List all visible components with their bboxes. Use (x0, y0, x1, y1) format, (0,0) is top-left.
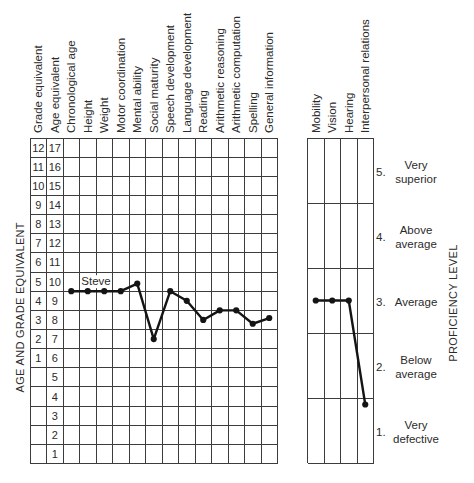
data-point (266, 315, 272, 321)
grade-tick-label: 11 (33, 161, 44, 173)
level-number: 5. (376, 166, 386, 178)
age-tick-label: 5 (52, 371, 58, 383)
data-point (200, 317, 206, 323)
age-tick-label: 14 (49, 199, 61, 211)
data-point (313, 297, 319, 303)
column-header: Speech development (164, 24, 176, 133)
proficiency-axis-title: PROFICIENCY LEVEL (447, 244, 459, 361)
level-label: average (395, 238, 437, 250)
level-label: defective (393, 433, 439, 445)
age-tick-label: 17 (49, 142, 61, 154)
column-header: Height (82, 99, 94, 133)
age-tick-label: 13 (49, 218, 61, 230)
level-number: 1. (376, 426, 386, 438)
column-header: Social maturity (148, 57, 160, 133)
age-tick-label: 4 (52, 391, 58, 403)
grade-tick-label: 8 (35, 218, 41, 230)
age-tick-label: 8 (52, 314, 58, 326)
data-point (151, 336, 157, 342)
age-tick-label: 15 (49, 180, 61, 192)
data-point (184, 298, 190, 304)
column-header: Arithmetic computation (230, 16, 242, 133)
level-label: Below (400, 354, 432, 366)
age-tick-label: 7 (52, 333, 58, 345)
data-point (85, 288, 91, 294)
age-tick-label: 16 (49, 161, 61, 173)
age-tick-label: 9 (52, 295, 58, 307)
grade-tick-label: 5 (35, 276, 41, 288)
column-header: Mental ability (131, 66, 143, 133)
grade-tick-label: 3 (35, 314, 41, 326)
age-tick-label: 11 (49, 256, 60, 268)
column-header: Mobility (310, 94, 322, 133)
age-tick-label: 3 (52, 410, 58, 422)
age-tick-label: 6 (52, 352, 58, 364)
data-point (167, 288, 173, 294)
column-header: Arithmetic reasoning (214, 28, 226, 133)
grade-tick-label: 2 (35, 333, 41, 345)
age-tick-label: 10 (49, 276, 61, 288)
data-point (217, 307, 223, 313)
level-label: superior (395, 173, 437, 185)
column-header: Interpersonal relations (359, 19, 371, 133)
level-number: 2. (376, 361, 386, 373)
column-header: Vision (326, 102, 338, 133)
grade-tick-label: 9 (35, 199, 41, 211)
level-label: Very (404, 159, 427, 171)
column-header: Chronological age (65, 40, 77, 133)
data-point (346, 297, 352, 303)
column-header: Hearing (343, 93, 355, 133)
grade-tick-label: 10 (32, 180, 44, 192)
data-point (233, 307, 239, 313)
grade-tick-label: 1 (35, 352, 41, 364)
level-label: average (395, 368, 437, 380)
grade-tick-label: 12 (32, 142, 44, 154)
age-tick-label: 12 (49, 237, 61, 249)
grade-tick-label: 6 (35, 256, 41, 268)
level-label: Very (404, 419, 427, 431)
age-tick-label: 1 (52, 448, 58, 460)
data-point (68, 288, 74, 294)
column-header: Spelling (247, 92, 259, 133)
column-header: Language development (181, 12, 193, 133)
data-point (250, 321, 256, 327)
grade-equivalent-header: Grade equivalent (32, 45, 44, 133)
column-header: Reading (197, 90, 209, 133)
level-label: Above (400, 224, 433, 236)
data-point (118, 288, 124, 294)
age-equivalent-header: Age equivalent (49, 56, 61, 133)
column-header: General information (263, 32, 275, 133)
level-number: 3. (376, 296, 386, 308)
series-label: Steve (81, 275, 110, 287)
grade-tick-label: 4 (35, 295, 41, 307)
data-point (134, 280, 140, 286)
data-point (101, 288, 107, 294)
y-axis-title: AGE AND GRADE EQUIVALENT (14, 222, 26, 392)
age-tick-label: 2 (52, 429, 58, 441)
level-number: 4. (376, 231, 386, 243)
profile-chart: Grade equivalentAge equivalentChronologi… (0, 0, 474, 483)
data-point (329, 297, 335, 303)
column-header: Motor coordination (115, 38, 127, 133)
level-label: Average (395, 296, 438, 308)
data-point (362, 401, 368, 407)
column-header: Weight (98, 97, 110, 133)
grade-tick-label: 7 (35, 237, 41, 249)
